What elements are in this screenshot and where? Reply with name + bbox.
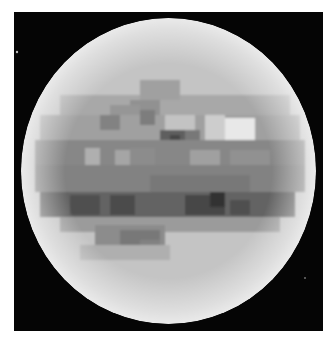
limb-brightening — [21, 18, 316, 324]
planet-image — [0, 0, 336, 343]
star-dot — [16, 51, 18, 53]
planet-disk — [21, 18, 316, 324]
star-dot — [304, 277, 306, 279]
